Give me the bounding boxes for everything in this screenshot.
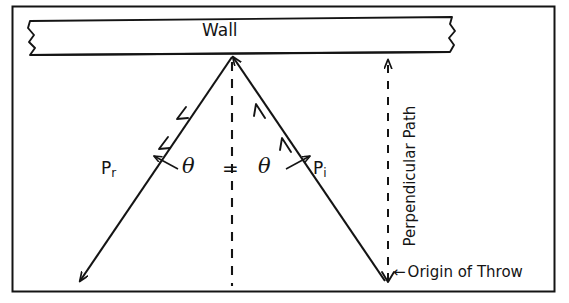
diagram-canvas [0, 0, 569, 303]
origin-of-throw-label: ←Origin of Throw [393, 265, 523, 280]
perpendicular-path-label: Perpendicular Path [403, 107, 418, 247]
left-arrow-icon: ← [393, 265, 406, 280]
wall-label: Wall [202, 22, 238, 39]
wall-band [28, 17, 455, 55]
theta-right-label: θ [258, 156, 271, 177]
incident-path-subscript: i [323, 166, 326, 180]
theta-left-label: θ [182, 156, 195, 177]
equals-sign-label: = [222, 158, 239, 178]
incident-path-letter: P [313, 158, 323, 178]
reflected-path-label: Pr [101, 160, 116, 179]
origin-of-throw-text: Origin of Throw [408, 263, 523, 281]
reflected-path-subscript: r [111, 166, 116, 180]
reflected-path-letter: P [101, 158, 111, 178]
reflection-diagram: Wall Pr Pi θ = θ Perpendicular Path ←Ori… [0, 0, 569, 303]
incident-path-label: Pi [313, 160, 327, 179]
